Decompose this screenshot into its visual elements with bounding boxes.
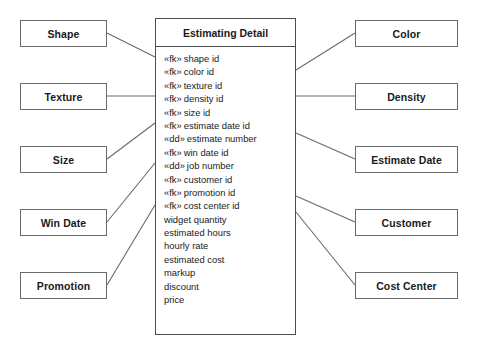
attribute-stereotype: «fk» [164, 119, 182, 132]
attribute-row: «dd»estimate number [164, 132, 295, 145]
attribute-row: widget quantity [164, 213, 295, 226]
attribute-name: color id [184, 65, 214, 78]
attribute-stereotype: «fk» [164, 199, 182, 212]
entity-label-promotion: Promotion [37, 280, 90, 292]
attribute-stereotype: «fk» [164, 106, 182, 119]
attribute-row: «fk»promotion id [164, 186, 295, 199]
attribute-row: «fk»win date id [164, 146, 295, 159]
entity-box-customer[interactable]: Customer [355, 209, 458, 236]
entity-box-density[interactable]: Density [355, 83, 458, 110]
attribute-stereotype: «dd» [164, 159, 185, 172]
attribute-row: «fk»size id [164, 106, 295, 119]
attribute-row: «fk»customer id [164, 173, 295, 186]
entity-label-texture: Texture [45, 91, 83, 103]
attribute-row: «fk»color id [164, 65, 295, 78]
connector-cost-center [296, 212, 355, 285]
attribute-row: markup [164, 266, 295, 279]
attribute-row: discount [164, 280, 295, 293]
entity-box-win-date[interactable]: Win Date [20, 209, 107, 236]
entity-box-cost-center[interactable]: Cost Center [355, 272, 458, 299]
attribute-name: win date id [184, 146, 229, 159]
attribute-stereotype: «fk» [164, 173, 182, 186]
entity-box-size[interactable]: Size [20, 146, 107, 173]
central-entity-title: Estimating Detail [183, 27, 268, 39]
attribute-row: «fk»density id [164, 92, 295, 105]
connector-color [296, 33, 355, 70]
entity-label-shape: Shape [47, 28, 79, 40]
attribute-stereotype: «fk» [164, 65, 182, 78]
attribute-list: «fk»shape id«fk»color id«fk»texture id«f… [156, 47, 295, 334]
attribute-name: estimate number [187, 132, 257, 145]
entity-box-estimate-date[interactable]: Estimate Date [355, 146, 458, 173]
entity-label-cost-center: Cost Center [376, 280, 437, 292]
attribute-row: «fk»cost center id [164, 199, 295, 212]
attribute-name: customer id [184, 173, 232, 186]
attribute-name: promotion id [184, 186, 236, 199]
attribute-row: price [164, 293, 295, 306]
attribute-name: texture id [184, 79, 223, 92]
attribute-row: «fk»shape id [164, 52, 295, 65]
entity-label-color: Color [393, 28, 421, 40]
connector-promotion [107, 205, 155, 285]
connector-estimate-date [296, 133, 355, 159]
attribute-row: «fk»estimate date id [164, 119, 295, 132]
attribute-row: estimated cost [164, 253, 295, 266]
attribute-name: estimated hours [164, 226, 231, 239]
attribute-name: density id [184, 92, 224, 105]
entity-label-customer: Customer [382, 217, 432, 229]
entity-label-win-date: Win Date [41, 217, 87, 229]
attribute-stereotype: «fk» [164, 146, 182, 159]
connector-win-date [107, 163, 155, 222]
attribute-name: hourly rate [164, 239, 208, 252]
attribute-name: widget quantity [164, 213, 227, 226]
attribute-row: «fk»texture id [164, 79, 295, 92]
attribute-row: hourly rate [164, 239, 295, 252]
attribute-name: estimate date id [184, 119, 250, 132]
attribute-name: markup [164, 266, 195, 279]
attribute-name: job number [187, 159, 234, 172]
entity-label-estimate-date: Estimate Date [371, 154, 442, 166]
attribute-stereotype: «fk» [164, 79, 182, 92]
entity-box-shape[interactable]: Shape [20, 20, 107, 47]
central-entity-header: Estimating Detail [156, 19, 295, 47]
entity-label-density: Density [387, 91, 426, 103]
connector-customer [296, 196, 355, 222]
attribute-stereotype: «fk» [164, 92, 182, 105]
attribute-name: estimated cost [164, 253, 224, 266]
attribute-row: «dd»job number [164, 159, 295, 172]
attribute-name: discount [164, 280, 199, 293]
connector-shape [107, 33, 155, 57]
entity-box-promotion[interactable]: Promotion [20, 272, 107, 299]
attribute-name: size id [184, 106, 211, 119]
entity-box-texture[interactable]: Texture [20, 83, 107, 110]
entity-box-estimating-detail[interactable]: Estimating Detail «fk»shape id«fk»color … [155, 18, 296, 335]
connector-size [107, 123, 155, 159]
attribute-stereotype: «fk» [164, 186, 182, 199]
attribute-name: price [164, 293, 184, 306]
entity-box-color[interactable]: Color [355, 20, 458, 47]
attribute-name: cost center id [184, 199, 240, 212]
attribute-name: shape id [184, 52, 219, 65]
attribute-row: estimated hours [164, 226, 295, 239]
entity-label-size: Size [53, 154, 74, 166]
attribute-stereotype: «dd» [164, 132, 185, 145]
attribute-stereotype: «fk» [164, 52, 182, 65]
